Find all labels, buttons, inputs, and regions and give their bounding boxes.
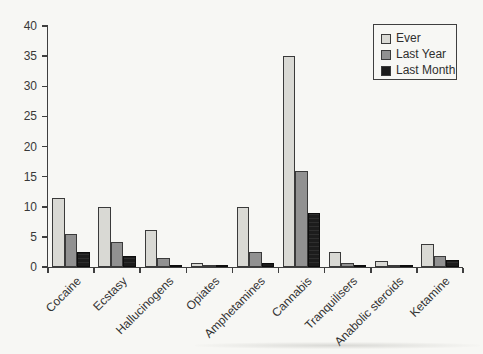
y-tick-label: 40 (0, 19, 37, 33)
bar-last-year (111, 242, 124, 267)
bar-ever (237, 207, 250, 267)
bar-ever (421, 244, 434, 267)
bar-last-month (400, 265, 413, 267)
legend-swatch-last-month (381, 66, 391, 76)
bar-ever (191, 263, 204, 267)
y-tick-label: 5 (0, 230, 37, 244)
y-tick-mark (42, 116, 48, 118)
y-tick-label: 35 (0, 49, 37, 63)
y-tick-label: 15 (0, 170, 37, 184)
legend-item-last-month: Last Month (381, 63, 456, 78)
bar-ever (375, 261, 388, 267)
x-axis-label: Ecstasy (90, 274, 130, 314)
bar-last-month (308, 213, 321, 267)
bar-ever (52, 198, 65, 267)
bar-ever (145, 230, 158, 267)
legend: Ever Last Year Last Month (373, 24, 457, 80)
bar-ever (283, 56, 296, 267)
bar-last-year (249, 252, 262, 267)
x-axis-labels: CocaineEcstasyHallucinogensOpiatesAmphet… (47, 272, 462, 352)
y-tick-label: 0 (0, 260, 37, 274)
legend-swatch-last-year (381, 50, 391, 60)
legend-item-ever: Ever (381, 31, 456, 46)
x-axis-label: Cocaine (43, 274, 84, 315)
y-tick-mark (42, 25, 48, 27)
y-tick-mark (42, 146, 48, 148)
bar-last-month (446, 260, 459, 267)
bar-last-year (434, 256, 447, 267)
y-axis-labels: 0510152025303540 (0, 26, 40, 267)
y-tick-mark (42, 236, 48, 238)
scan-artifact (195, 342, 480, 349)
y-tick-label: 20 (0, 140, 37, 154)
legend-swatch-ever (381, 34, 391, 44)
y-tick-mark (42, 206, 48, 208)
bar-last-year (65, 234, 78, 267)
bar-last-year (388, 265, 401, 267)
y-tick-mark (42, 176, 48, 178)
y-tick-mark (42, 55, 48, 57)
y-tick-label: 10 (0, 200, 37, 214)
bar-last-year (341, 263, 354, 267)
y-tick-label: 25 (0, 109, 37, 123)
x-tick-mark (462, 268, 464, 273)
legend-label-ever: Ever (396, 32, 421, 45)
x-axis-label: Ketamine (407, 274, 453, 320)
bar-last-year (295, 171, 308, 267)
bar-last-month (216, 265, 229, 267)
x-axis-label: Opiates (183, 274, 222, 313)
y-tick-mark (42, 86, 48, 88)
legend-item-last-year: Last Year (381, 47, 456, 62)
bar-ever (329, 252, 342, 267)
legend-label-last-month: Last Month (396, 64, 455, 77)
bar-last-month (354, 265, 367, 267)
bar-last-year (203, 265, 216, 267)
bar-ever (98, 207, 111, 267)
bar-last-month (123, 256, 136, 267)
figure: 0510152025303540 CocaineEcstasyHallucino… (0, 0, 483, 354)
legend-label-last-year: Last Year (396, 48, 446, 61)
bar-last-year (157, 258, 170, 267)
bar-last-month (262, 263, 275, 267)
bar-last-month (170, 265, 183, 267)
x-axis-label: Cannabis (269, 274, 315, 320)
y-tick-label: 30 (0, 79, 37, 93)
bar-last-month (77, 252, 90, 267)
